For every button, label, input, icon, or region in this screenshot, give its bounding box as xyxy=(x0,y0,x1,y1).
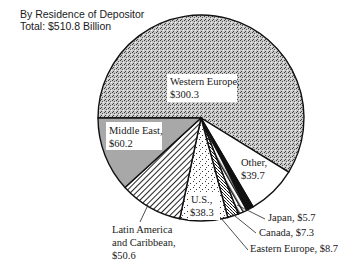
label-japan: Japan, $5.7 xyxy=(268,212,316,223)
label-canada: Canada, $7.3 xyxy=(259,227,314,238)
label-eastern-europe: Eastern Europe, $8.7 xyxy=(250,243,338,254)
svg-text:$50.6: $50.6 xyxy=(112,250,136,261)
pie-chart: Western Europe, $300.3 Middle East, $60.… xyxy=(0,0,355,269)
svg-text:$60.2: $60.2 xyxy=(109,138,133,149)
label-middle-east: Middle East, $60.2 xyxy=(106,122,163,150)
svg-text:$300.3: $300.3 xyxy=(170,89,199,100)
label-us: U.S., $38.3 xyxy=(188,192,220,220)
svg-text:Middle East,: Middle East, xyxy=(109,125,163,136)
label-western-europe: Western Europe, $300.3 xyxy=(167,74,240,102)
svg-text:U.S.,: U.S., xyxy=(191,194,212,205)
svg-text:Other,: Other, xyxy=(241,157,267,168)
svg-text:Western Europe,: Western Europe, xyxy=(170,76,240,87)
svg-text:$38.3: $38.3 xyxy=(190,207,214,218)
svg-text:and Caribbean,: and Caribbean, xyxy=(112,237,176,248)
svg-text:$39.7: $39.7 xyxy=(241,170,265,181)
svg-text:Latin America: Latin America xyxy=(112,224,173,235)
label-latin-america: Latin America and Caribbean, $50.6 xyxy=(112,224,176,261)
pie-slices xyxy=(98,15,304,221)
